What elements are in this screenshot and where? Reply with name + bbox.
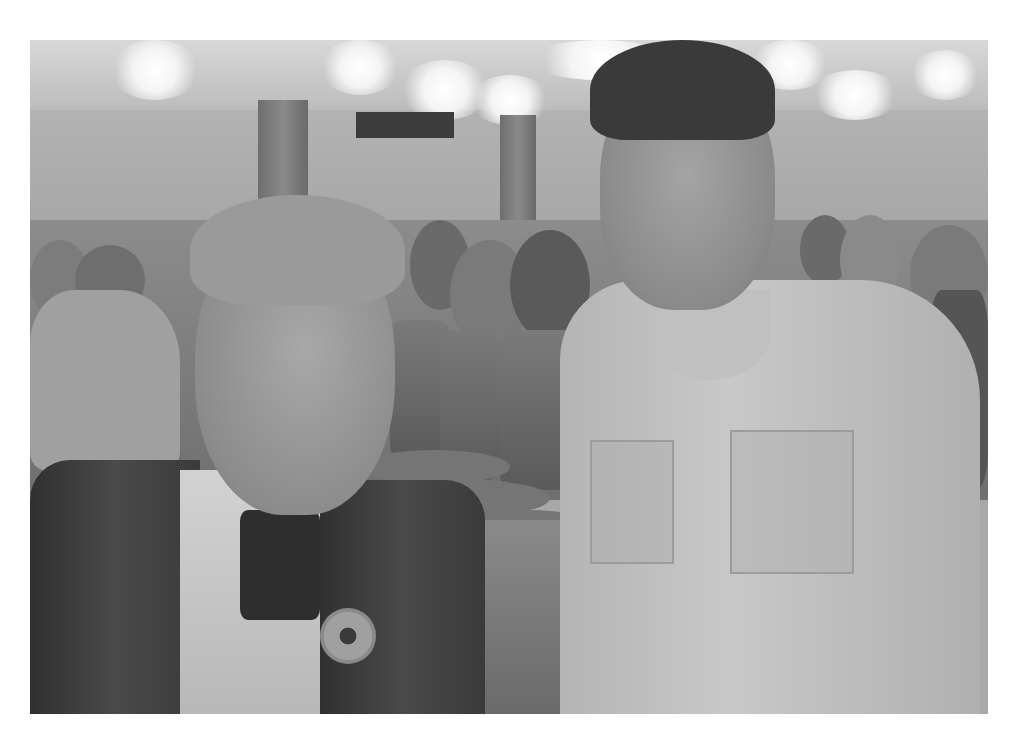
ceiling-light — [810, 70, 900, 120]
ceiling-light — [910, 50, 980, 100]
left-person-jacket-right — [320, 480, 485, 714]
ceiling-light — [320, 40, 400, 95]
pin-badge — [320, 608, 376, 664]
photograph — [30, 40, 988, 714]
right-person-hair — [590, 40, 775, 140]
shirt-pocket — [590, 440, 674, 564]
left-person-undershirt — [240, 510, 320, 620]
ceiling-light — [110, 40, 200, 100]
chair-seat — [360, 450, 510, 484]
wall-vent — [356, 112, 454, 138]
left-person-hair — [190, 195, 405, 305]
shirt-pocket — [730, 430, 854, 574]
left-person-jacket-left — [30, 460, 200, 714]
background-person — [30, 290, 180, 470]
